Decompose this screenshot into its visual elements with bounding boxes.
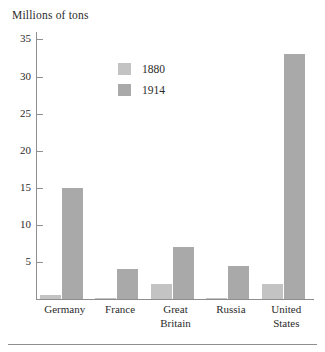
legend-label: 1914 [142,84,165,96]
bar-1914 [173,247,194,299]
bar-chart-figure: Millions of tons 5101520253035 GermanyFr… [0,0,325,352]
legend-label: 1880 [142,63,165,75]
category-label-line: France [92,302,147,316]
legend-item: 1914 [118,81,165,99]
y-tick-label: 10 [20,217,31,232]
bar-1880 [151,284,172,299]
category-label-line: United [259,302,314,316]
category-label: France [92,302,147,316]
bar-1880 [40,295,61,299]
y-tick-label: 5 [26,254,32,269]
bars-container [37,32,314,299]
x-axis-line [36,299,314,300]
bar-group [37,32,92,299]
bar-group [259,32,314,299]
category-label: Russia [203,302,258,316]
legend-item: 1880 [118,60,165,78]
legend-swatch-1914 [118,84,131,96]
bar-1880 [95,298,116,299]
y-tick-label: 20 [20,143,31,158]
bar-1914 [62,188,83,299]
category-label-line: Great [148,302,203,316]
legend: 18801914 [118,60,165,102]
bottom-divider [8,344,317,345]
bar-1914 [228,266,249,299]
category-label: GreatBritain [148,302,203,330]
bar-1914 [284,54,305,299]
bar-group [203,32,258,299]
category-labels: GermanyFranceGreatBritainRussiaUnitedSta… [37,302,314,342]
category-label-line: Britain [148,316,203,330]
bar-1880 [262,284,283,299]
legend-swatch-1880 [118,63,131,75]
y-tick-label: 30 [20,69,31,84]
y-tick-label: 15 [20,180,31,195]
bar-1880 [206,298,227,299]
bar-1914 [117,269,138,299]
y-tick-label: 25 [20,106,31,121]
category-label-line: States [259,316,314,330]
category-label-line: Germany [37,302,92,316]
plot-area: 5101520253035 [36,32,314,300]
category-label: Germany [37,302,92,316]
category-label: UnitedStates [259,302,314,330]
chart-title: Millions of tons [12,9,89,21]
y-tick-label: 35 [20,31,31,46]
category-label-line: Russia [203,302,258,316]
